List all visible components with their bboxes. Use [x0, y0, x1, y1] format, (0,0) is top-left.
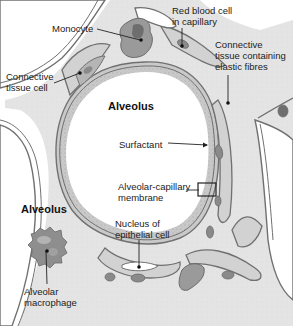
main-alveolus: [56, 62, 219, 244]
label-connective-tissue-elastic: Connective tissue containing elastic fib…: [215, 39, 286, 72]
label-alveolus-secondary: Alveolus: [21, 203, 67, 216]
label-connective-tissue-cell: Connective tissue cell: [6, 71, 54, 93]
label-alveolar-macrophage: Alveolar macrophage: [24, 286, 77, 308]
label-surfactant: Surfactant: [119, 139, 162, 150]
alveolar-macrophage: [28, 227, 67, 268]
label-epithelial-nucleus: Nucleus of epithelial cell: [115, 218, 169, 240]
alveolar-airspace: [66, 72, 208, 233]
label-red-blood-cell: Red blood cell in capillary: [172, 5, 232, 27]
monocyte: [120, 18, 152, 57]
label-alveolus-main: Alveolus: [108, 100, 154, 113]
label-monocyte: Monocyte: [52, 23, 93, 34]
label-alveolar-capillary-membrane: Alveolar-capillary membrane: [118, 181, 190, 203]
